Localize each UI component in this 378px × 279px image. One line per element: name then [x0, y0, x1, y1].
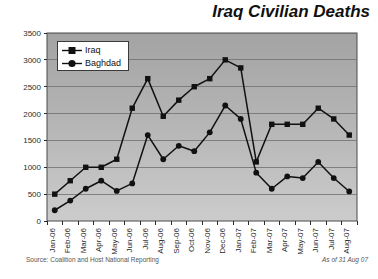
data-point-baghdad-Apr-07: [284, 174, 290, 180]
data-point-baghdad-Sep-06: [176, 143, 182, 149]
data-point-baghdad-Jan-06: [52, 207, 58, 213]
x-axis-tick-label: Jan-07: [234, 227, 243, 252]
x-axis-tick-label: Sep-06: [172, 227, 181, 253]
data-point-iraq-Jun-06: [130, 106, 135, 111]
data-point-iraq-Mar-06: [83, 165, 88, 170]
data-point-iraq-Jul-06: [145, 76, 150, 81]
x-axis-tick-labels: Jan-06Feb-06Mar-06Apr-06May-06Jun-06Jul-…: [48, 227, 352, 254]
data-point-iraq-Jun-07: [316, 106, 321, 111]
data-point-iraq-May-06: [114, 157, 119, 162]
x-axis-tick-label: Jun-06: [125, 227, 134, 252]
x-axis-tick-label: Nov-06: [203, 227, 212, 253]
data-point-baghdad-May-07: [300, 175, 306, 181]
chart-container: Iraq Civilian Deaths 0500100015002000250…: [0, 0, 378, 279]
data-point-baghdad-Dec-06: [222, 103, 228, 109]
data-point-baghdad-May-06: [114, 188, 120, 194]
x-axis-tick-label: Jun-07: [311, 227, 320, 252]
data-point-baghdad-Jun-07: [315, 159, 321, 165]
y-axis-tick-label: 0: [37, 217, 42, 226]
data-point-iraq-Jul-07: [331, 116, 336, 121]
data-point-baghdad-Mar-07: [269, 186, 275, 192]
x-axis-tick-label: Jul-07: [327, 227, 336, 249]
data-point-baghdad-Jul-07: [331, 175, 337, 181]
legend-marker-circle-icon: [61, 58, 83, 69]
data-point-iraq-Sep-06: [176, 97, 181, 102]
x-axis-tick-label: Mar-07: [265, 227, 274, 253]
y-axis-tick-label: 500: [28, 190, 42, 199]
data-point-iraq-Jan-07: [238, 65, 243, 70]
x-axis-tick-label: Aug-06: [156, 227, 165, 253]
x-axis-tick-label: Apr-07: [280, 227, 289, 252]
data-point-baghdad-Jan-07: [238, 116, 244, 122]
x-axis-tick-label: Mar-06: [79, 227, 88, 253]
source-note: Source: Coalition and Host National Repo…: [26, 256, 159, 263]
data-point-iraq-Oct-06: [192, 84, 197, 89]
data-point-iraq-Jan-06: [52, 191, 57, 196]
x-axis-tick-label: May-06: [110, 227, 119, 254]
data-point-iraq-Apr-07: [285, 122, 290, 127]
data-point-iraq-Nov-06: [207, 76, 212, 81]
data-point-iraq-Dec-06: [223, 57, 228, 62]
data-point-baghdad-Jul-06: [145, 132, 151, 138]
data-point-baghdad-Aug-06: [160, 156, 166, 162]
legend-label-iraq: Iraq: [85, 45, 101, 56]
data-point-baghdad-Mar-06: [83, 186, 89, 192]
legend-item-iraq: Iraq: [61, 44, 125, 57]
legend-marker-square-icon: [61, 45, 83, 56]
chart-legend: Iraq Baghdad: [57, 41, 129, 71]
data-point-iraq-May-07: [300, 122, 305, 127]
y-axis-tick-labels: 0500100015002000250030003500: [23, 29, 41, 226]
legend-item-baghdad: Baghdad: [61, 57, 125, 70]
y-axis-tick-label: 1500: [23, 136, 41, 145]
x-axis-tick-label: Jan-06: [48, 227, 57, 252]
y-axis-tick-label: 2500: [23, 83, 41, 92]
data-point-baghdad-Feb-07: [253, 170, 259, 176]
data-point-baghdad-Feb-06: [67, 198, 73, 204]
data-point-iraq-Apr-06: [99, 165, 104, 170]
y-axis-tick-label: 2000: [23, 110, 41, 119]
x-axis-tick-label: Oct-06: [187, 227, 196, 252]
x-axis-tick-label: Jul-06: [141, 227, 150, 249]
data-point-iraq-Aug-06: [161, 114, 166, 119]
data-point-iraq-Aug-07: [347, 132, 352, 137]
x-axis-tick-label: Apr-06: [94, 227, 103, 252]
x-axis-tick-label: Feb-07: [249, 227, 258, 253]
as-of-note: As of 31 Aug 07: [322, 256, 368, 263]
x-axis-tick-label: Feb-06: [63, 227, 72, 253]
data-point-baghdad-Nov-06: [207, 129, 213, 135]
data-point-iraq-Feb-06: [68, 178, 73, 183]
data-point-iraq-Mar-07: [269, 122, 274, 127]
data-point-baghdad-Aug-07: [346, 189, 352, 195]
legend-label-baghdad: Baghdad: [85, 58, 121, 69]
y-axis-tick-label: 3500: [23, 29, 41, 38]
x-axis-tick-label: May-07: [296, 227, 305, 254]
data-point-baghdad-Apr-06: [98, 178, 104, 184]
data-point-baghdad-Oct-06: [191, 148, 197, 154]
x-axis-ticks: [47, 221, 357, 225]
y-axis-tick-label: 3000: [23, 56, 41, 65]
x-axis-tick-label: Aug-07: [342, 227, 351, 253]
x-axis-tick-label: Dec-06: [218, 227, 227, 253]
data-point-baghdad-Jun-06: [129, 181, 135, 187]
y-axis-tick-label: 1000: [23, 163, 41, 172]
